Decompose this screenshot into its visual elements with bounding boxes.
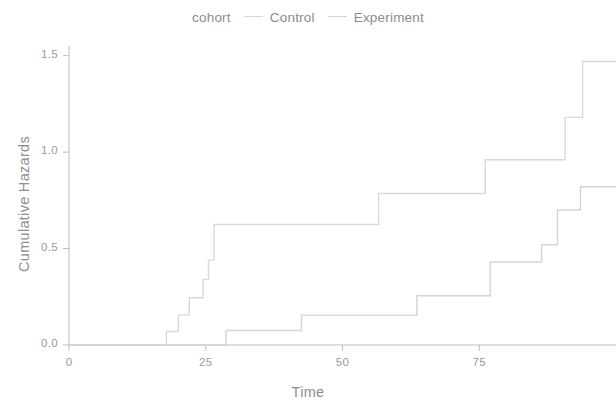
y-tick-label: 0.0 bbox=[24, 337, 58, 349]
x-tick-label: 75 bbox=[459, 356, 499, 368]
x-tick-label: 50 bbox=[323, 356, 363, 368]
x-tick-label: 25 bbox=[186, 356, 226, 368]
series-lines bbox=[69, 61, 616, 345]
plot-area bbox=[0, 0, 616, 408]
y-axis-title: Cumulative Hazards bbox=[16, 84, 32, 324]
series-line-control bbox=[69, 61, 616, 345]
cumulative-hazards-chart: cohort Control Experiment Cumulative Haz… bbox=[0, 0, 616, 408]
y-tick-label: 0.5 bbox=[24, 241, 58, 253]
series-line-experiment bbox=[69, 187, 616, 345]
axis-lines bbox=[69, 46, 616, 345]
x-axis-title: Time bbox=[0, 384, 616, 400]
x-tick-label: 0 bbox=[49, 356, 89, 368]
y-tick-label: 1.0 bbox=[24, 144, 58, 156]
y-tick-label: 1.5 bbox=[24, 48, 58, 60]
